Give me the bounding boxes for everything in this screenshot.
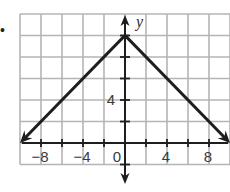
coordinate-plane: −8−40484y <box>0 0 230 192</box>
x-tick-label: −4 <box>73 148 90 165</box>
x-tick-label: 8 <box>204 148 212 165</box>
x-tick-label: 4 <box>162 148 170 165</box>
y-axis-label: y <box>134 13 144 31</box>
x-tick-label: 0 <box>113 148 121 165</box>
x-tick-label: −8 <box>31 148 48 165</box>
y-tick-label: 4 <box>107 91 115 108</box>
